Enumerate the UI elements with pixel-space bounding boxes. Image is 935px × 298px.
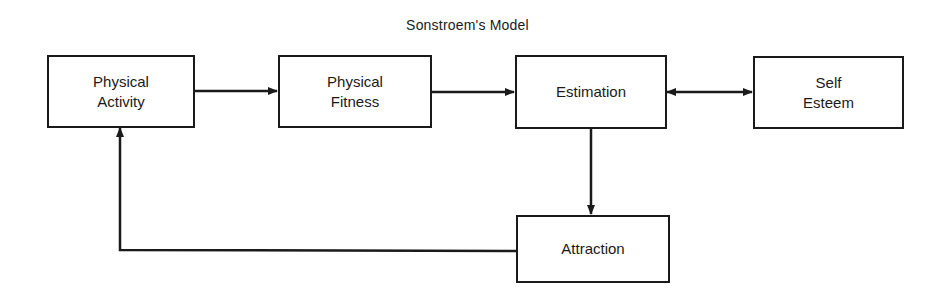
node-physical-fitness: Physical Fitness (278, 55, 432, 128)
arrow-attraction-to-activity (120, 128, 516, 251)
node-label: Estimation (556, 82, 626, 102)
node-label: Fitness (327, 92, 383, 112)
node-self-esteem: Self Esteem (753, 56, 904, 129)
connectors (0, 0, 935, 298)
node-estimation: Estimation (515, 55, 667, 129)
node-label: Esteem (803, 93, 854, 113)
node-label: Physical (93, 72, 149, 92)
node-label: Self (803, 73, 854, 93)
node-label: Attraction (561, 239, 624, 259)
node-attraction: Attraction (516, 215, 670, 283)
node-physical-activity: Physical Activity (47, 55, 195, 128)
node-label: Activity (93, 92, 149, 112)
node-label: Physical (327, 72, 383, 92)
